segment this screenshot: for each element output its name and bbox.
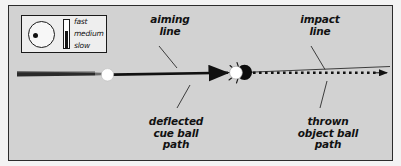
speed-scale: fast medium slow	[74, 17, 106, 51]
speed-label-slow: slow	[74, 42, 106, 50]
leader-aiming-line	[159, 46, 177, 68]
cue-stick-icon	[17, 72, 105, 77]
speed-label-medium: medium	[74, 30, 106, 38]
cue-ball	[101, 69, 113, 81]
leader-deflected-path	[177, 85, 190, 108]
speed-label-fast: fast	[74, 18, 106, 26]
billiards-diagram: fast medium slow aiming line impact line…	[0, 0, 401, 166]
label-thrown-object-ball-path: thrown object ball path	[267, 116, 389, 151]
diagram-plate: fast medium slow aiming line impact line…	[8, 5, 393, 161]
speed-legend: fast medium slow	[21, 15, 107, 53]
label-deflected-cue-ball-path: deflected cue ball path	[121, 116, 231, 151]
leader-thrown-path	[320, 81, 327, 108]
contact-point-icon	[33, 33, 38, 38]
aiming-line	[113, 73, 228, 75]
label-aiming-line: aiming line	[127, 14, 213, 37]
leader-impact-line	[311, 46, 325, 70]
label-impact-line: impact line	[277, 14, 363, 37]
speed-meter-icon	[63, 19, 70, 49]
speed-meter-fill	[65, 31, 68, 48]
legend-ball-wrap	[22, 16, 62, 52]
cue-ball-at-impact	[230, 66, 243, 79]
